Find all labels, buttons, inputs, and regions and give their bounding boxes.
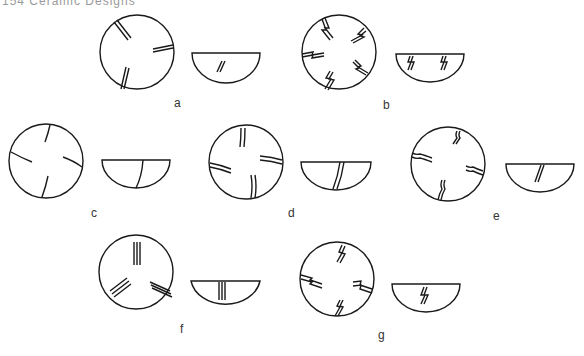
label-e: e — [493, 209, 500, 223]
bowl-side-view-b — [396, 54, 464, 82]
figure-c — [9, 124, 170, 198]
label-f: f — [180, 322, 183, 336]
figure-a — [100, 15, 260, 89]
label-c: c — [91, 206, 97, 220]
figure-e — [411, 127, 574, 201]
bowl-side-view-c — [102, 160, 170, 188]
bowl-side-view-a — [192, 53, 260, 83]
bowl-top-view-f — [99, 235, 173, 309]
bowl-side-view-d — [301, 162, 371, 190]
label-b: b — [383, 98, 390, 112]
label-g: g — [378, 328, 385, 342]
label-d: d — [288, 206, 295, 220]
figure-g — [300, 242, 460, 316]
figure-plate — [0, 0, 584, 356]
figure-b — [302, 15, 464, 90]
bowl-top-view-e — [411, 127, 485, 201]
figure-d — [209, 125, 371, 199]
figure-f — [99, 235, 260, 309]
label-a: a — [174, 96, 181, 110]
bowl-top-view-a — [100, 15, 174, 89]
